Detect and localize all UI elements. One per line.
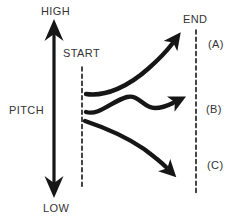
- pitch-contour-diagram: HIGH END START (A) PITCH (B) (C) LOW: [0, 0, 231, 221]
- contour-b-label: (B): [206, 103, 222, 115]
- low-label: LOW: [43, 202, 69, 214]
- contour-b-level-arrow: [86, 97, 173, 113]
- end-label: END: [183, 13, 207, 25]
- contour-a-label: (A): [208, 38, 224, 50]
- contour-c-label: (C): [207, 159, 223, 171]
- pitch-axis-label: PITCH: [9, 104, 44, 116]
- high-label: HIGH: [41, 5, 70, 17]
- start-label: START: [63, 47, 100, 59]
- contour-c-falling-arrow: [85, 121, 166, 167]
